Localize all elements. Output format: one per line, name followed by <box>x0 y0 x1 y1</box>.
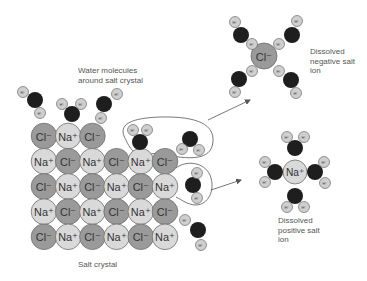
sodium-ion: Na⁺ <box>80 199 106 225</box>
svg-text:H⁺: H⁺ <box>197 148 202 153</box>
chloride-ion: Cl⁻ <box>55 199 81 225</box>
ion-symbol: Cl⁻ <box>108 206 124 218</box>
ion-symbol: Na⁺ <box>82 156 102 168</box>
svg-text:H⁺: H⁺ <box>195 196 200 201</box>
svg-text:O: O <box>237 77 240 82</box>
chloride-ion: Cl⁻ <box>128 224 154 250</box>
ion-symbol: Cl⁻ <box>133 231 149 243</box>
sodium-ion: Na⁺ <box>104 174 130 200</box>
svg-text:H⁺: H⁺ <box>183 218 188 223</box>
svg-text:O: O <box>191 183 194 188</box>
ion-symbol: Cl⁻ <box>36 231 52 243</box>
ion-symbol: Na⁺ <box>286 167 304 178</box>
sodium-ion: Na⁺ <box>31 148 57 174</box>
svg-text:H⁺: H⁺ <box>233 90 238 95</box>
ion-symbol: Na⁺ <box>107 231 127 243</box>
svg-text:H⁺: H⁺ <box>294 91 299 96</box>
ion-symbol: Cl⁻ <box>84 131 100 143</box>
dissolved-sodium-ion: Na⁺ <box>283 160 307 184</box>
svg-text:H⁺: H⁺ <box>145 128 150 133</box>
svg-text:H⁺: H⁺ <box>277 69 282 74</box>
svg-text:O: O <box>290 33 293 38</box>
water-molecules-label: Water molecules around salt crystal <box>78 66 143 85</box>
water-molecule: OH⁺H⁺ <box>128 125 153 151</box>
sodium-ion: Na⁺ <box>55 224 81 250</box>
svg-text:O: O <box>273 170 276 175</box>
water-molecule: OH⁺H⁺ <box>96 89 123 124</box>
chloride-ion: Cl⁻ <box>152 199 178 225</box>
ion-symbol: Cl⁻ <box>36 131 52 143</box>
svg-text:H⁺: H⁺ <box>180 147 185 152</box>
water-molecule: OH⁺H⁺ <box>230 66 258 98</box>
salt-crystal-lattice: Cl⁻Na⁺Cl⁻Na⁺Cl⁻Na⁺Cl⁻Na⁺Cl⁻Cl⁻Na⁺Cl⁻Na⁺C… <box>31 123 178 249</box>
svg-text:O: O <box>313 170 316 175</box>
svg-text:H⁺: H⁺ <box>250 69 255 74</box>
svg-text:H⁺: H⁺ <box>195 171 200 176</box>
svg-text:H⁺: H⁺ <box>263 180 268 185</box>
ion-symbol: Cl⁻ <box>60 156 76 168</box>
ion-symbol: Cl⁻ <box>108 156 124 168</box>
ion-symbol: Cl⁻ <box>60 206 76 218</box>
svg-text:H⁺: H⁺ <box>79 102 84 107</box>
ion-symbol: Cl⁻ <box>36 181 52 193</box>
water-molecule: OH⁺H⁺ <box>260 157 284 188</box>
ion-symbol: Na⁺ <box>58 181 78 193</box>
ion-symbol: Cl⁻ <box>157 206 173 218</box>
water-molecule: OH⁺H⁺ <box>18 87 46 119</box>
arrow <box>208 100 250 120</box>
chloride-ion: Cl⁻ <box>31 123 57 149</box>
svg-text:O: O <box>239 33 242 38</box>
ion-symbol: Na⁺ <box>131 156 151 168</box>
water-molecule: OH⁺H⁺ <box>177 131 205 156</box>
sodium-ion: Na⁺ <box>128 199 154 225</box>
ion-symbol: Na⁺ <box>82 206 102 218</box>
dissolved-negative-ion-label: Dissolved negative salt ion <box>310 47 355 76</box>
water-molecule: OH⁺H⁺ <box>180 215 207 251</box>
svg-text:H⁺: H⁺ <box>285 135 290 140</box>
ion-symbol: Na⁺ <box>155 181 175 193</box>
ion-symbol: Na⁺ <box>34 206 54 218</box>
svg-text:H⁺: H⁺ <box>302 135 307 140</box>
ion-symbol: Na⁺ <box>34 156 54 168</box>
svg-text:O: O <box>33 98 36 103</box>
svg-text:H⁺: H⁺ <box>21 90 26 95</box>
water-molecule: OH⁺H⁺ <box>57 99 87 123</box>
svg-text:H⁺: H⁺ <box>60 102 65 107</box>
svg-text:O: O <box>188 137 191 142</box>
svg-text:H⁺: H⁺ <box>277 42 282 47</box>
ion-symbol: Na⁺ <box>155 231 175 243</box>
ion-symbol: Na⁺ <box>131 206 151 218</box>
sodium-ion: Na⁺ <box>55 174 81 200</box>
svg-text:O: O <box>293 194 296 199</box>
svg-text:O: O <box>102 102 105 107</box>
svg-text:H⁺: H⁺ <box>99 116 104 121</box>
arrows <box>208 100 250 190</box>
water-molecule: OH⁺H⁺ <box>282 188 310 213</box>
chloride-ion: Cl⁻ <box>80 224 106 250</box>
ion-symbol: Cl⁻ <box>256 51 272 63</box>
sodium-ion: Na⁺ <box>128 148 154 174</box>
svg-text:H⁺: H⁺ <box>285 205 290 210</box>
sodium-ion: Na⁺ <box>104 224 130 250</box>
svg-text:O: O <box>289 78 292 83</box>
chloride-ion: Cl⁻ <box>128 174 154 200</box>
chloride-ion: Cl⁻ <box>31 174 57 200</box>
dissolved-positive-ion-label: Dissolved positive salt ion <box>278 216 320 245</box>
ion-symbol: Cl⁻ <box>157 156 173 168</box>
sodium-ion: Na⁺ <box>31 199 57 225</box>
water-molecule: OH⁺H⁺ <box>307 157 331 189</box>
chloride-ion: Cl⁻ <box>80 123 106 149</box>
sodium-ion: Na⁺ <box>55 123 81 149</box>
salt-crystal-label: Salt crystal <box>78 260 117 270</box>
svg-text:O: O <box>70 112 73 117</box>
svg-text:H⁺: H⁺ <box>295 19 300 24</box>
svg-text:O: O <box>293 146 296 151</box>
sodium-ion: Na⁺ <box>152 224 178 250</box>
svg-text:H⁺: H⁺ <box>302 205 307 210</box>
chloride-ion: Cl⁻ <box>31 224 57 250</box>
svg-text:O: O <box>196 228 199 233</box>
svg-text:H⁺: H⁺ <box>199 243 204 248</box>
chloride-ion: Cl⁻ <box>104 199 130 225</box>
svg-text:H⁺: H⁺ <box>131 128 136 133</box>
ion-symbol: Cl⁻ <box>133 181 149 193</box>
